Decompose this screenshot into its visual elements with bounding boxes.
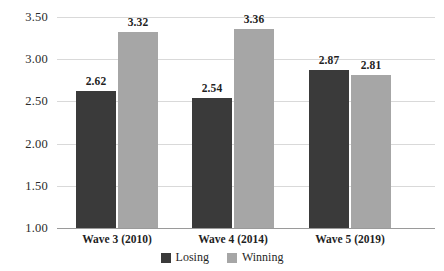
legend-label: Winning	[242, 250, 284, 265]
chart-legend: LosingWinning	[0, 250, 444, 265]
bar-winning-1[interactable]	[118, 32, 158, 228]
x-axis-category-label: Wave 5 (2019)	[315, 233, 385, 245]
grouped-bar-chart: 3.503.002.502.001.501.002.623.322.543.36…	[0, 0, 444, 271]
bar-value-label: 2.62	[86, 75, 107, 87]
bar-losing-3[interactable]	[309, 70, 349, 228]
y-axis-tick-label: 3.00	[25, 52, 48, 67]
bar-value-label: 2.81	[361, 59, 382, 71]
y-axis-tick-label: 3.50	[25, 10, 48, 25]
x-axis-category-label: Wave 3 (2010)	[82, 233, 152, 245]
bar-value-label: 3.36	[244, 13, 265, 25]
legend-swatch-icon	[161, 253, 171, 263]
bar-value-label: 2.87	[319, 54, 340, 66]
legend-item-losing[interactable]: Losing	[161, 250, 209, 265]
y-axis-tick-label: 2.50	[25, 94, 48, 109]
y-axis-tick-label: 2.00	[25, 136, 48, 151]
bar-losing-1[interactable]	[76, 91, 116, 228]
y-axis-tick-label: 1.00	[25, 221, 48, 236]
bar-value-label: 3.32	[128, 16, 149, 28]
bar-value-label: 2.54	[202, 82, 223, 94]
x-axis-category-label: Wave 4 (2014)	[198, 233, 268, 245]
bar-winning-2[interactable]	[234, 29, 274, 228]
bar-losing-2[interactable]	[192, 98, 232, 228]
bar-winning-3[interactable]	[351, 75, 391, 228]
gridline	[57, 228, 435, 229]
plot-area: 3.503.002.502.001.501.002.623.322.543.36…	[57, 17, 435, 228]
y-axis-tick-label: 1.50	[25, 178, 48, 193]
legend-swatch-icon	[227, 253, 237, 263]
legend-label: Losing	[176, 250, 209, 265]
legend-item-winning[interactable]: Winning	[227, 250, 284, 265]
